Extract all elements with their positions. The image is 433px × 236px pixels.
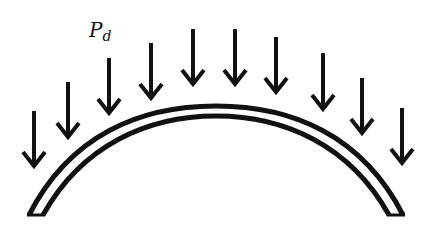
- load-arrow-icon: [98, 58, 120, 113]
- load-arrow-icon: [224, 29, 246, 84]
- load-label-main: P: [89, 18, 102, 42]
- load-arrow-icon: [182, 29, 204, 84]
- load-arrow-icon: [265, 37, 287, 92]
- load-label-subscript: d: [102, 28, 111, 44]
- load-arrows: [23, 29, 413, 166]
- load-label: Pd: [89, 20, 111, 43]
- arch-structure: [27, 106, 405, 215]
- load-arrow-icon: [391, 108, 413, 163]
- arch-inner-edge: [43, 116, 389, 215]
- load-arrow-icon: [23, 111, 45, 166]
- arch-load-diagram: [0, 0, 433, 236]
- load-arrow-icon: [57, 82, 79, 137]
- load-arrow-icon: [351, 78, 373, 133]
- load-arrow-icon: [312, 53, 334, 109]
- load-arrow-icon: [140, 43, 162, 98]
